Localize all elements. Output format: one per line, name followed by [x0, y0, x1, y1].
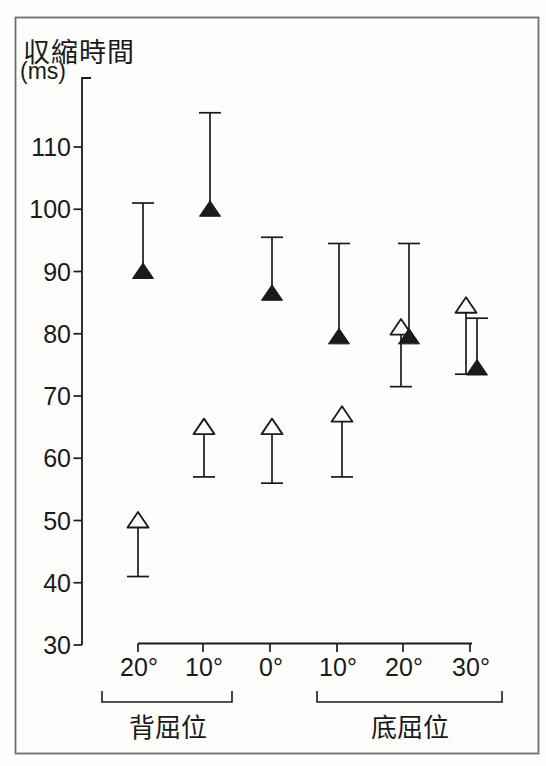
y-axis [82, 78, 91, 645]
y-tick-label: 40 [43, 569, 71, 597]
y-axis-unit-label: (ms) [20, 58, 66, 85]
open-triangle-marker [128, 512, 149, 528]
y-tick-label: 100 [29, 195, 71, 223]
y-tick-label: 80 [43, 320, 71, 348]
y-tick-label: 110 [31, 133, 71, 161]
data-point [331, 406, 353, 477]
data-point [132, 203, 154, 278]
data-point [127, 512, 149, 577]
data-point [455, 297, 477, 374]
x-tick-label: 30° [452, 653, 490, 681]
open-triangle-marker [456, 297, 477, 313]
group-bracket [317, 691, 502, 702]
filled-triangle-marker [200, 201, 221, 217]
group-label: 底屈位 [371, 713, 449, 743]
open-triangle-marker [262, 419, 283, 435]
data-point [466, 318, 488, 375]
group-label: 背屈位 [129, 713, 207, 743]
y-tick-label: 30 [43, 631, 71, 659]
open-triangle-marker [332, 406, 353, 422]
x-tick-label: 10° [185, 653, 223, 681]
data-point [199, 113, 221, 216]
data-point [193, 419, 215, 477]
x-tick-label: 20° [120, 653, 158, 681]
group-bracket [102, 691, 232, 702]
filled-triangle-marker [133, 263, 154, 279]
filled-triangle-marker [329, 328, 350, 344]
x-tick-label: 10° [319, 653, 357, 681]
y-tick-label: 50 [43, 507, 71, 535]
x-tick-label: 20° [385, 653, 423, 681]
y-tick-label: 70 [43, 382, 71, 410]
figure: 1101009080706050403020°10°0°10°20°30°背屈位… [0, 0, 546, 766]
data-point [261, 419, 283, 484]
data-point [261, 237, 283, 300]
filled-triangle-marker [262, 285, 283, 301]
filled-triangle-marker [467, 359, 488, 375]
y-tick-label: 60 [43, 444, 71, 472]
chart-svg: 1101009080706050403020°10°0°10°20°30°背屈位… [0, 0, 546, 766]
x-tick-label: 0° [259, 653, 283, 681]
data-point [328, 243, 350, 343]
open-triangle-marker [194, 419, 215, 435]
y-tick-label: 90 [43, 258, 71, 286]
